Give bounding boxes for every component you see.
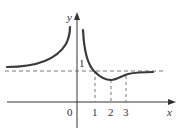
y-tick-1: 1 — [79, 57, 85, 69]
curve-right-branch — [83, 30, 153, 80]
function-graph: y x 0 1 1 2 3 — [0, 0, 178, 134]
curve-left-branch — [7, 27, 70, 67]
y-axis-label: y — [66, 11, 72, 23]
x-axis-label: x — [166, 106, 172, 118]
x-tick-1: 1 — [92, 106, 98, 118]
x-tick-3: 3 — [123, 106, 129, 118]
origin-label: 0 — [67, 106, 73, 118]
x-tick-2: 2 — [108, 106, 114, 118]
